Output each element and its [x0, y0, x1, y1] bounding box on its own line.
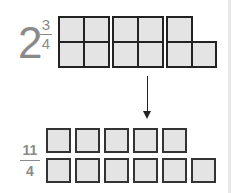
quarter-cell	[58, 41, 85, 68]
down-arrow-icon	[143, 111, 151, 119]
quarter-cell	[137, 16, 164, 43]
improper-fraction-numerator: 11	[20, 142, 40, 158]
quarter-piece	[162, 158, 187, 183]
quarter-cell	[83, 16, 110, 43]
quarter-cell	[112, 16, 139, 43]
quarter-piece	[162, 128, 187, 153]
quarter-cell	[166, 41, 193, 68]
quarter-cell	[191, 41, 217, 68]
improper-fraction-denominator: 4	[20, 163, 40, 179]
quarter-piece	[133, 158, 158, 183]
quarter-piece	[46, 128, 71, 153]
quarter-piece	[191, 158, 216, 183]
mixed-number-fraction: 3 4	[40, 17, 52, 52]
quarter-piece	[46, 158, 71, 183]
down-arrow-line	[147, 76, 148, 112]
quarter-piece	[104, 128, 129, 153]
quarter-piece	[133, 128, 158, 153]
quarter-piece	[75, 128, 100, 153]
mixed-number-whole: 2	[18, 18, 42, 68]
quarter-cell	[137, 41, 164, 68]
right-border-stripe	[228, 0, 231, 193]
quarter-cell	[112, 41, 139, 68]
mixed-number-numerator: 3	[40, 17, 52, 33]
quarter-cell	[166, 16, 193, 43]
quarter-piece	[104, 158, 129, 183]
mixed-number-denominator: 4	[40, 36, 52, 52]
quarter-cell	[83, 41, 110, 68]
fraction-bar	[20, 160, 40, 161]
quarter-cell	[58, 16, 85, 43]
improper-fraction: 11 4	[20, 142, 40, 179]
quarter-piece	[75, 158, 100, 183]
